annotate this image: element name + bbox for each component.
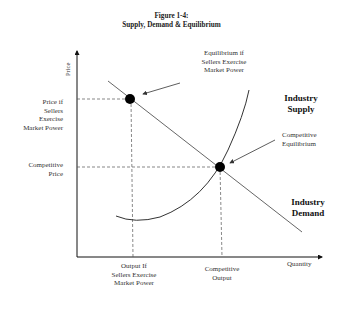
market-power-equilibrium-point xyxy=(125,94,135,104)
demand-label: Industry Demand xyxy=(283,197,333,219)
market-power-output-guide xyxy=(131,99,133,257)
x-axis-label: Quantity xyxy=(287,260,312,269)
guide-lines xyxy=(77,99,222,257)
axes xyxy=(77,51,322,257)
competitive-equilibrium-point xyxy=(215,162,225,172)
competitive-equilibrium-annotation: Competitive Equilibrium xyxy=(282,131,337,148)
demand-curve xyxy=(108,81,302,232)
competitive-output-guide xyxy=(220,167,222,257)
market-power-output-label: Output If Sellers Exercise Market Power xyxy=(95,262,173,288)
y-axis-label: Price xyxy=(64,63,71,76)
market-power-arrow xyxy=(143,83,180,94)
supply-curve xyxy=(116,90,249,220)
market-power-price-label: Price if Sellers Exercise Market Power xyxy=(8,98,63,132)
competitive-arrow xyxy=(230,140,275,163)
competitive-output-label: Competitive Output xyxy=(196,265,248,282)
competitive-price-label: Competitive Price xyxy=(8,161,63,178)
market-power-equilibrium-annotation: Equilibrium if Sellers Exercise Market P… xyxy=(194,49,254,75)
supply-label: Industry Supply xyxy=(276,93,326,115)
